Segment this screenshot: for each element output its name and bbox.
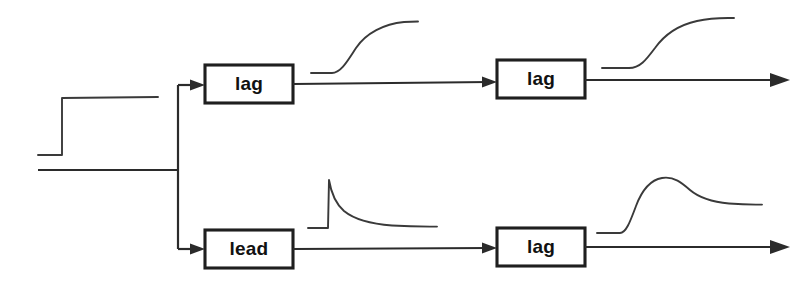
top-interstage-wire	[293, 77, 497, 88]
block-label-lag-bottom-second: lag	[527, 236, 555, 257]
block-diagram: lag lag	[0, 0, 808, 284]
block-label-lag-top-second: lag	[527, 68, 555, 89]
block-lag-bottom-second[interactable]: lag	[497, 228, 585, 266]
arrow-head-icon	[190, 80, 205, 91]
first-order-lag-response-trace	[311, 22, 418, 74]
step-input-trace	[38, 97, 158, 155]
bottom-interstage-wire	[293, 243, 497, 254]
arrow-head-icon	[482, 243, 497, 254]
arrow-head-icon	[770, 240, 790, 254]
second-order-lag-response-trace	[602, 18, 734, 68]
block-label-lag-top-first: lag	[235, 73, 263, 94]
top-branch-input-wire	[178, 80, 205, 91]
block-lead-bottom-first[interactable]: lead	[205, 230, 293, 268]
bottom-branch-input-wire	[178, 244, 205, 255]
lead-response-trace	[308, 180, 437, 228]
input-trunk-wire	[38, 85, 178, 249]
block-lag-top-first[interactable]: lag	[205, 65, 293, 103]
top-output-wire	[585, 73, 790, 87]
diagram-canvas: lag lag	[0, 0, 808, 284]
arrow-head-icon	[190, 244, 205, 255]
lead-lag-response-trace	[597, 178, 762, 233]
arrow-head-icon	[482, 77, 497, 88]
block-label-lead-bottom-first: lead	[230, 238, 269, 259]
arrow-head-icon	[770, 73, 790, 87]
bottom-output-wire	[585, 240, 790, 254]
block-lag-top-second[interactable]: lag	[497, 60, 585, 98]
